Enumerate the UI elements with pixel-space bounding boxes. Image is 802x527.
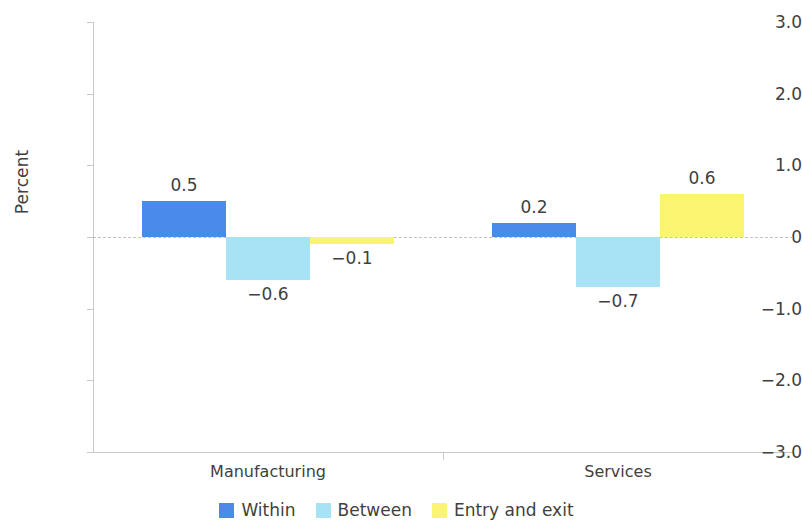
y-tick-mark [87, 165, 94, 166]
legend-swatch-icon [219, 503, 234, 518]
bar-between-services[interactable] [576, 237, 660, 287]
legend-swatch-icon [432, 503, 447, 518]
legend-label: Between [338, 500, 412, 520]
legend-label: Within [241, 500, 295, 520]
bar-value-label: −0.7 [597, 291, 638, 311]
y-tick-mark [87, 380, 94, 381]
legend-item-within[interactable]: Within [219, 500, 295, 520]
legend-item-entry-and-exit[interactable]: Entry and exit [432, 500, 574, 520]
x-category-separator-tick [443, 452, 444, 460]
bar-entry-and-exit-manufacturing[interactable] [310, 237, 394, 244]
bar-chart: Percent 3.02.01.00−1.0−2.0−3.0 0.5−0.6−0… [0, 0, 802, 527]
bar-value-label: −0.6 [247, 284, 288, 304]
y-tick-mark [87, 94, 94, 95]
y-tick-mark [87, 452, 94, 453]
bar-value-label: 0.6 [688, 168, 715, 188]
x-category-label-manufacturing: Manufacturing [210, 462, 326, 481]
legend-label: Entry and exit [454, 500, 574, 520]
y-tick-mark [87, 22, 94, 23]
zero-line [93, 237, 793, 238]
bar-value-label: −0.1 [331, 248, 372, 268]
bar-value-label: 0.2 [520, 197, 547, 217]
legend-swatch-icon [316, 503, 331, 518]
y-tick-label: 3.0 [732, 12, 802, 32]
y-tick-mark [87, 309, 94, 310]
bar-value-label: 0.5 [170, 175, 197, 195]
x-category-label-services: Services [584, 462, 651, 481]
bar-between-manufacturing[interactable] [226, 237, 310, 280]
y-tick-label: −2.0 [732, 370, 802, 390]
y-tick-label: 2.0 [732, 84, 802, 104]
bar-entry-and-exit-services[interactable] [660, 194, 744, 237]
chart-legend: WithinBetweenEntry and exit [0, 500, 802, 520]
y-tick-label: −1.0 [732, 299, 802, 319]
y-axis-title: Percent [12, 122, 32, 242]
legend-item-between[interactable]: Between [316, 500, 412, 520]
bar-within-manufacturing[interactable] [142, 201, 226, 237]
y-tick-label: 1.0 [732, 155, 802, 175]
bar-within-services[interactable] [492, 223, 576, 237]
y-tick-label: −3.0 [732, 442, 802, 462]
